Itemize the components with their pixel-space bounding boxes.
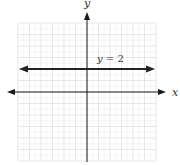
coordinate-plane: x y y = 2 <box>0 0 180 165</box>
equation-value: = 2 <box>103 53 124 64</box>
x-axis-left-arrow-icon <box>7 89 15 95</box>
x-axis-label: x <box>172 86 179 99</box>
equation-label: y = 2 <box>96 53 124 64</box>
x-axis-right-arrow-icon <box>158 89 166 95</box>
y-axis-up-arrow-icon <box>84 12 90 20</box>
y-axis-label: y <box>83 0 91 10</box>
